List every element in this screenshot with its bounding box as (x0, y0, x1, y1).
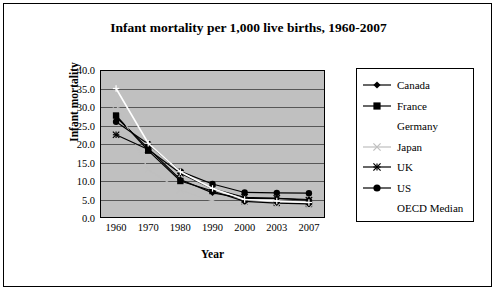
y-tick-label: 0.0 (82, 213, 95, 224)
y-tick-label: 10.0 (77, 176, 95, 187)
x-tick-label: 1960 (106, 222, 127, 233)
legend-item-canada[interactable]: Canada (357, 75, 475, 95)
x-tick-label: 2007 (298, 222, 319, 233)
legend-marker-icon (357, 116, 397, 136)
y-tick-label: 5.0 (82, 194, 95, 205)
legend-item-us[interactable]: US (357, 178, 475, 198)
legend-marker-icon (357, 157, 397, 177)
x-tick-label: 1980 (170, 222, 191, 233)
y-tick-label: 20.0 (77, 139, 95, 150)
y-tick-label: 30.0 (77, 102, 95, 113)
legend-label: Germany (397, 120, 438, 132)
legend-item-oecd-median[interactable]: OECD Median (357, 198, 475, 218)
legend-label: US (397, 182, 411, 194)
legend-marker-icon (357, 96, 397, 116)
legend-marker-icon (357, 198, 397, 218)
legend-label: France (397, 100, 427, 112)
chart-legend: CanadaFranceGermanyJapanUKUSOECD Median (356, 68, 474, 222)
chart-title: Infant mortality per 1,000 live births, … (4, 20, 493, 36)
chart-frame: Infant mortality per 1,000 live births, … (3, 3, 492, 287)
legend-label: Japan (397, 141, 422, 153)
y-tick-label: 40.0 (77, 65, 95, 76)
x-tick-label: 2000 (234, 222, 255, 233)
plot-area: 0.05.010.015.020.025.030.035.040.0 19601… (100, 70, 325, 218)
legend-marker-icon (357, 137, 397, 157)
x-tick-label: 1990 (202, 222, 223, 233)
y-tick-label: 15.0 (77, 157, 95, 168)
legend-label: Canada (397, 79, 430, 91)
x-tick-label: 1970 (138, 222, 159, 233)
legend-item-france[interactable]: France (357, 96, 475, 116)
series-layer (100, 70, 325, 218)
legend-item-germany[interactable]: Germany (357, 116, 475, 136)
legend-label: UK (397, 161, 413, 173)
y-tick-label: 35.0 (77, 83, 95, 94)
legend-label: OECD Median (397, 202, 463, 214)
y-tick-label: 25.0 (77, 120, 95, 131)
x-tick-label: 2003 (266, 222, 287, 233)
legend-marker-icon (357, 75, 397, 95)
legend-item-japan[interactable]: Japan (357, 137, 475, 157)
x-axis-label: Year (100, 248, 325, 260)
legend-item-uk[interactable]: UK (357, 157, 475, 177)
legend-marker-icon (357, 178, 397, 198)
